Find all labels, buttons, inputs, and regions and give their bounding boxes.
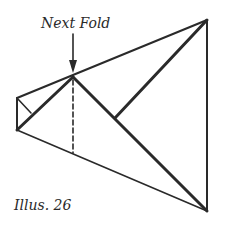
flap-right-edge <box>73 77 207 211</box>
next-fold-label: Next Fold <box>40 15 110 31</box>
outline-top-edge <box>17 20 207 98</box>
illustration-caption: Illus. 26 <box>13 197 71 213</box>
inner-crease <box>115 20 207 118</box>
left-flap-crease <box>17 98 31 113</box>
origami-diagram: Next Fold Illus. 26 <box>0 0 226 229</box>
flap-left-edge <box>17 77 73 130</box>
down-arrow-icon <box>69 60 77 73</box>
